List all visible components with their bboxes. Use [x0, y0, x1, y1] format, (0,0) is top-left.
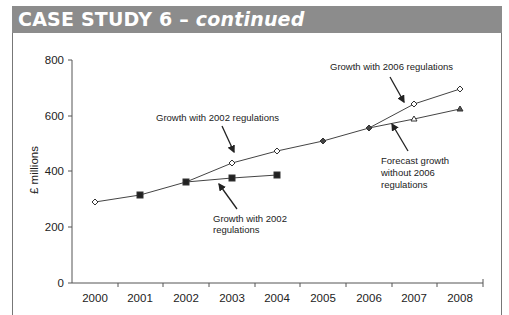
arrow-2006-regs — [390, 77, 404, 102]
y-tick-600: 600 — [45, 110, 64, 122]
y-tick-labels: 800 600 400 200 0 — [45, 54, 64, 289]
y-tick-0: 0 — [58, 277, 64, 289]
marker-2003-lower — [229, 175, 235, 181]
marker-2006 — [366, 125, 372, 131]
marker-2003-upper — [229, 160, 235, 166]
x-tick-2005: 2005 — [310, 292, 336, 304]
annotation-2002-upper: Growth with 2002 regulations — [156, 112, 279, 123]
y-tick-200: 200 — [45, 221, 64, 233]
marker-2000 — [92, 199, 98, 205]
marker-2008-lower — [457, 106, 463, 111]
annotation-forecast-line3: regulations — [381, 179, 428, 190]
x-tick-2000: 2000 — [82, 292, 108, 304]
line-chart: 800 600 400 200 0 £ millions 2000 2001 2… — [0, 0, 509, 315]
y-axis — [68, 60, 72, 283]
marker-2008-upper — [457, 86, 463, 92]
x-tick-2004: 2004 — [264, 292, 290, 304]
series-2006-regs-line — [369, 89, 460, 128]
annotation-forecast-line1: Forecast growth — [381, 155, 449, 166]
annotations: Growth with 2006 regulations Growth with… — [156, 61, 453, 235]
arrow-2002-lower — [219, 184, 237, 209]
x-tick-2002: 2002 — [173, 292, 199, 304]
marker-2002 — [183, 179, 189, 185]
annotation-2006-regs: Growth with 2006 regulations — [330, 61, 453, 72]
arrow-forecast — [392, 124, 408, 151]
y-axis-label: £ millions — [28, 146, 40, 194]
x-tick-2008: 2008 — [447, 292, 473, 304]
x-tick-2007: 2007 — [401, 292, 427, 304]
x-tick-2006: 2006 — [356, 292, 382, 304]
marker-2004-upper — [274, 148, 280, 154]
y-tick-400: 400 — [45, 165, 64, 177]
annotation-forecast-line2: without 2006 — [380, 167, 435, 178]
y-tick-800: 800 — [45, 54, 64, 66]
annotation-2002-lower-line2: regulations — [213, 224, 260, 235]
x-tick-2001: 2001 — [127, 292, 153, 304]
marker-2001 — [137, 192, 143, 198]
x-tick-2003: 2003 — [219, 292, 245, 304]
marker-2005 — [320, 138, 326, 144]
x-tick-labels: 2000 2001 2002 2003 2004 2005 2006 2007 … — [82, 292, 473, 304]
marker-2007-upper — [411, 101, 417, 107]
marker-2004-lower — [274, 172, 280, 178]
x-axis — [72, 279, 483, 287]
arrow-2002-upper — [222, 126, 234, 152]
annotation-2002-lower-line1: Growth with 2002 — [213, 213, 287, 224]
